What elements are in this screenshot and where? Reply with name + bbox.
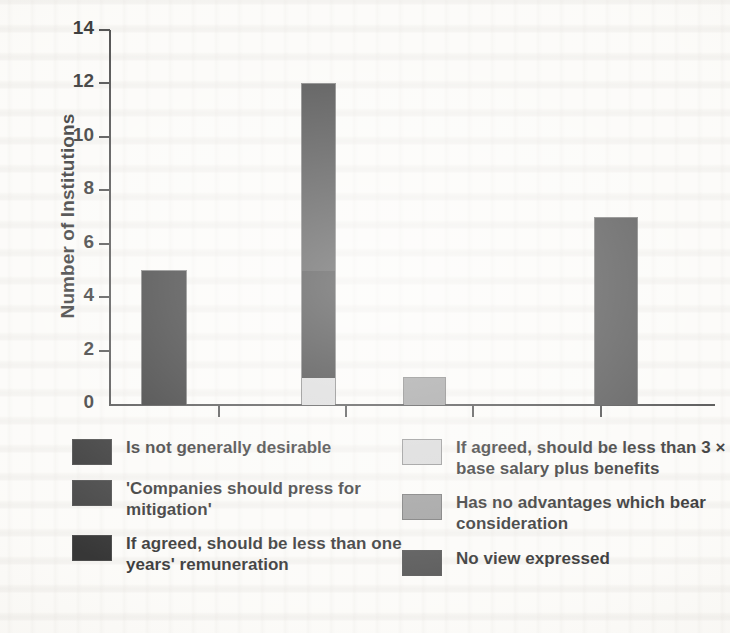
y-tick-mark-6 (99, 243, 110, 245)
y-tick-label-8: 8 (60, 177, 94, 199)
y-tick-mark-2 (99, 350, 110, 352)
legend-swatch-icon (72, 480, 112, 506)
bar-segment-3-1 (404, 378, 445, 405)
legend-label: No view expressed (456, 549, 610, 570)
legend-label: Has no advantages which bear considerati… (456, 493, 730, 534)
y-tick-mark-12 (99, 82, 110, 84)
bar-group-3 (403, 377, 446, 404)
legend-swatch-icon (402, 439, 442, 465)
legend-swatch-icon (402, 550, 442, 576)
bar-segment-4-1 (595, 218, 637, 405)
legend-item-left-2[interactable]: 'Companies should press for mitigation' (72, 479, 402, 520)
legend-item-left-1[interactable]: Is not generally desirable (72, 438, 402, 465)
y-tick-label-4: 4 (60, 284, 94, 306)
legend-label: If agreed, should be less than one years… (126, 534, 402, 575)
legend-swatch-icon (72, 439, 112, 465)
y-tick-label-6: 6 (60, 231, 94, 253)
bar-group-4 (594, 217, 638, 404)
y-tick-mark-4 (99, 296, 110, 298)
bar-segment-2-3 (302, 378, 335, 405)
x-tick-mark-4 (600, 406, 602, 417)
y-tick-mark-10 (99, 136, 110, 138)
legend-item-right-3[interactable]: No view expressed (402, 549, 730, 576)
legend-column-left: Is not generally desirable'Companies sho… (72, 438, 402, 590)
chart-legend: Is not generally desirable'Companies sho… (0, 438, 730, 633)
legend-swatch-icon (402, 494, 442, 520)
bar-chart-plot: Number of Institutions 02468101214 (0, 0, 730, 430)
bar-group-2 (301, 83, 336, 404)
legend-swatch-icon (72, 535, 112, 561)
y-tick-label-10: 10 (60, 124, 94, 146)
legend-label: If agreed, should be less than 3 × base … (456, 438, 730, 479)
x-tick-mark-3 (472, 406, 474, 417)
bar-segment-2-2 (302, 271, 335, 378)
y-tick-label-0: 0 (60, 391, 94, 413)
legend-label: 'Companies should press for mitigation' (126, 479, 402, 520)
legend-item-left-3[interactable]: If agreed, should be less than one years… (72, 534, 402, 575)
y-axis-tick-labels: 02468101214 (56, 0, 94, 430)
y-tick-label-12: 12 (60, 70, 94, 92)
x-tick-mark-2 (345, 406, 347, 417)
legend-item-right-1[interactable]: If agreed, should be less than 3 × base … (402, 438, 730, 479)
legend-column-right: If agreed, should be less than 3 × base … (402, 438, 730, 590)
y-tick-mark-8 (99, 189, 110, 191)
legend-item-right-2[interactable]: Has no advantages which bear considerati… (402, 493, 730, 534)
y-tick-label-14: 14 (60, 17, 94, 39)
bar-segment-1-1 (142, 271, 186, 405)
legend-label: Is not generally desirable (126, 438, 331, 459)
chart-page: Number of Institutions 02468101214 Is no… (0, 0, 730, 633)
x-tick-mark-1 (218, 406, 220, 417)
bar-group-1 (141, 270, 187, 404)
y-tick-mark-14 (99, 29, 110, 31)
y-tick-label-2: 2 (60, 338, 94, 360)
bar-segment-2-1 (302, 84, 335, 271)
